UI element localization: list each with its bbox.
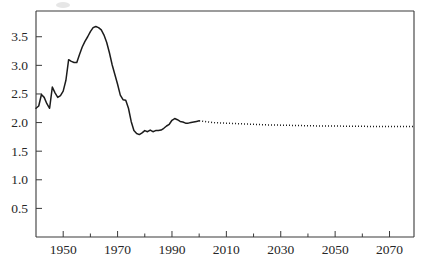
x-tick-label: 2010 [213, 242, 240, 257]
axis-frame [36, 11, 414, 237]
x-tick-label: 1950 [50, 242, 77, 257]
x-axis-ticks [63, 231, 389, 237]
y-tick-label: 2.5 [11, 86, 28, 101]
y-tick-label: 1.5 [11, 144, 28, 159]
y-tick-label: 3.0 [11, 58, 28, 73]
x-tick-label: 2030 [267, 242, 294, 257]
y-tick-label: 1.0 [11, 172, 28, 187]
x-axis-tick-labels: 1950197019902010203020502070 [50, 242, 404, 257]
series-line-observed [36, 26, 199, 134]
y-tick-label: 3.5 [11, 29, 28, 44]
x-tick-label: 1990 [158, 242, 185, 257]
y-axis-ticks [36, 37, 42, 209]
y-axis-tick-labels: 0.51.01.52.02.53.03.5 [11, 29, 28, 216]
line-chart: 0.51.01.52.02.53.03.5 195019701990201020… [0, 0, 434, 271]
x-tick-label: 2070 [376, 242, 403, 257]
x-tick-label: 2050 [322, 242, 349, 257]
y-tick-label: 2.0 [11, 115, 28, 130]
series-line-projected [199, 121, 414, 127]
y-tick-label: 0.5 [11, 201, 28, 216]
x-tick-label: 1970 [104, 242, 131, 257]
chart-figure: 0.51.01.52.02.53.03.5 195019701990201020… [0, 0, 434, 271]
scan-artifact [56, 2, 70, 8]
